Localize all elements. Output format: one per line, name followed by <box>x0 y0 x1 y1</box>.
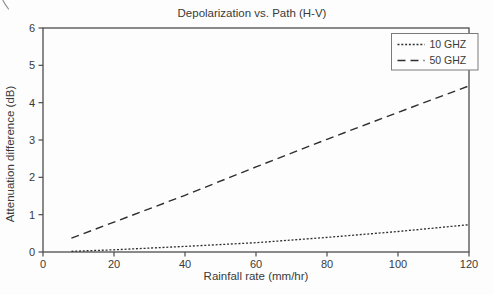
y-tick-label: 6 <box>29 22 35 34</box>
legend-label-10-ghz: 10 GHZ <box>430 38 467 50</box>
chart-title: Depolarization vs. Path (H-V) <box>178 7 327 19</box>
x-tick-label: 80 <box>321 258 333 270</box>
y-tick-label: 5 <box>29 59 35 71</box>
chart-figure: Depolarization vs. Path (H-V) 0204060801… <box>0 0 494 295</box>
y-tick-label: 3 <box>29 134 35 146</box>
series-line-10-ghz <box>71 225 469 252</box>
y-tick-label: 1 <box>29 209 35 221</box>
x-ticks: 020406080100120 <box>40 252 478 270</box>
x-axis-label: Rainfall rate (mm/hr) <box>204 270 309 282</box>
x-tick-label: 120 <box>460 258 478 270</box>
y-tick-label: 4 <box>29 97 35 109</box>
legend: 10 GHZ50 GHZ <box>392 34 479 71</box>
scan-artifact-mark <box>3 1 9 10</box>
x-tick-label: 100 <box>389 258 407 270</box>
series-lines <box>71 86 469 251</box>
y-axis-label: Attenuation difference (dB) <box>4 86 16 223</box>
y-tick-label: 2 <box>29 171 35 183</box>
series-line-50-ghz <box>71 86 469 238</box>
x-tick-label: 40 <box>179 258 191 270</box>
x-tick-label: 0 <box>40 258 46 270</box>
x-tick-label: 60 <box>250 258 262 270</box>
legend-label-50-ghz: 50 GHZ <box>430 54 467 66</box>
y-tick-label: 0 <box>29 246 35 258</box>
chart: Depolarization vs. Path (H-V) 0204060801… <box>0 0 494 295</box>
x-tick-label: 20 <box>108 258 120 270</box>
y-ticks: 0123456 <box>29 22 43 258</box>
